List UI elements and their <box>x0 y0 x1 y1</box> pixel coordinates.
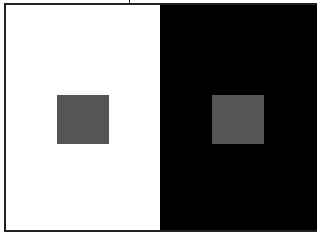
white-panel <box>4 3 160 232</box>
black-panel <box>160 3 317 232</box>
illusion-figure <box>4 3 317 232</box>
gray-square-on-black <box>212 95 264 144</box>
gray-square-on-white <box>57 95 109 144</box>
